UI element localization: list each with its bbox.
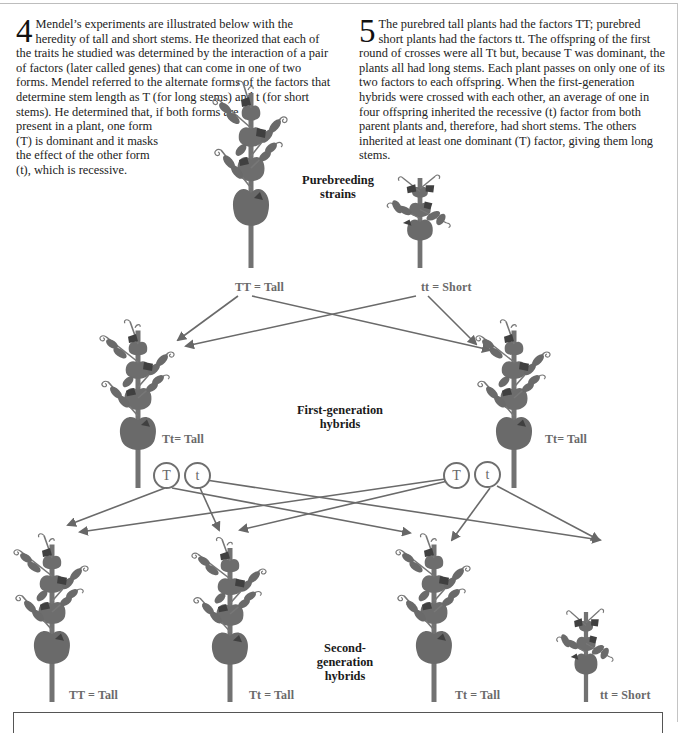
plant-parent-tall: [213, 81, 287, 268]
genotype-f1-right: Tt= Tall: [545, 432, 587, 447]
factor-circle-dominant-right: T: [443, 462, 470, 489]
caption-box-border: [13, 712, 663, 733]
plant-f2-1: [14, 534, 88, 702]
plant-parent-short: [387, 175, 450, 268]
factor-circle-recessive-right: t: [474, 461, 501, 488]
plant-f2-2: [192, 538, 266, 702]
label-second-generation-hybrids: Second- generation hybrids: [305, 641, 385, 683]
label-purebreeding-strains: Purebreeding strains: [288, 173, 388, 201]
label-line: Purebreeding: [288, 173, 388, 187]
factor-circle-dominant-left: T: [153, 462, 180, 489]
genotype-f2-4: tt = Short: [600, 688, 651, 703]
genotype-f2-3: Tt = Tall: [455, 688, 500, 703]
arrows-f1-to-f2: [68, 478, 600, 540]
label-line: hybrids: [275, 417, 405, 431]
factor-circle-recessive-left: t: [184, 462, 211, 489]
genotype-f1-left: Tt= Tall: [162, 432, 204, 447]
label-line: generation: [305, 655, 385, 669]
arrows-parent-to-f1: [178, 296, 490, 350]
label-line: hybrids: [305, 669, 385, 683]
label-line: Second-: [305, 641, 385, 655]
plant-f2-3: [396, 534, 470, 702]
label-line: strains: [288, 187, 388, 201]
genotype-parent-tall: TT = Tall: [235, 280, 284, 295]
label-line: First-generation: [275, 403, 405, 417]
genotype-f2-1: TT = Tall: [69, 688, 118, 703]
genotype-f2-2: Tt = Tall: [249, 688, 294, 703]
genotype-parent-short: tt = Short: [421, 280, 472, 295]
label-first-generation-hybrids: First-generation hybrids: [275, 403, 405, 431]
